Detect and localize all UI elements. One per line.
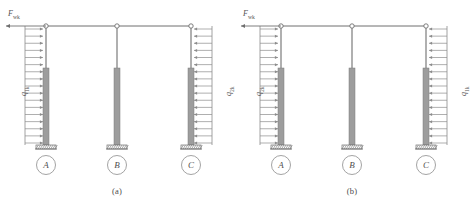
point-load-arrow bbox=[6, 24, 46, 28]
left-distributed-load-label-b: q2k bbox=[254, 86, 265, 96]
svg-text:B: B bbox=[349, 160, 355, 170]
column-node-label-A: A bbox=[272, 156, 291, 175]
hinge-joint bbox=[189, 24, 193, 28]
fixed-support bbox=[35, 145, 57, 149]
column-B bbox=[114, 26, 120, 145]
column-node-label-A: A bbox=[37, 156, 56, 175]
hinge-joint bbox=[350, 24, 354, 28]
panel-a-drawing: ABC bbox=[0, 0, 234, 213]
panel-a: ABC Fwk q1k q2k (a) bbox=[0, 0, 234, 213]
column-A bbox=[43, 26, 49, 145]
panel-b-caption: (b) bbox=[235, 186, 469, 196]
column-node-label-C: C bbox=[182, 156, 201, 175]
left-distributed-load-label-a: q1k bbox=[19, 86, 30, 96]
svg-text:A: A bbox=[42, 160, 49, 170]
right-distributed-load bbox=[429, 26, 447, 145]
svg-text:C: C bbox=[188, 160, 195, 170]
panel-b-drawing: ABC bbox=[235, 0, 469, 213]
svg-text:A: A bbox=[277, 160, 284, 170]
fixed-support bbox=[341, 145, 363, 149]
column-C bbox=[423, 26, 429, 145]
panel-b: ABC Fwk q2k q1k (b) bbox=[235, 0, 469, 213]
panel-a-caption: (a) bbox=[0, 186, 234, 196]
svg-text:B: B bbox=[114, 160, 120, 170]
column-C bbox=[188, 26, 194, 145]
column-node-label-B: B bbox=[108, 156, 127, 175]
svg-text:C: C bbox=[423, 160, 430, 170]
column-B bbox=[349, 26, 355, 145]
column-A bbox=[278, 26, 284, 145]
fixed-support bbox=[106, 145, 128, 149]
point-load-label-b: Fwk bbox=[243, 9, 255, 20]
column-node-label-B: B bbox=[343, 156, 362, 175]
point-load-label-a: Fwk bbox=[8, 9, 20, 20]
hinge-joint bbox=[424, 24, 428, 28]
column-node-label-C: C bbox=[417, 156, 436, 175]
right-distributed-load bbox=[194, 26, 212, 145]
fixed-support bbox=[180, 145, 202, 149]
fixed-support bbox=[270, 145, 292, 149]
fixed-support bbox=[415, 145, 437, 149]
point-load-arrow bbox=[241, 24, 281, 28]
hinge-joint bbox=[115, 24, 119, 28]
right-distributed-load-label-b: q1k bbox=[459, 86, 470, 96]
right-distributed-load-label-a: q2k bbox=[224, 86, 235, 96]
